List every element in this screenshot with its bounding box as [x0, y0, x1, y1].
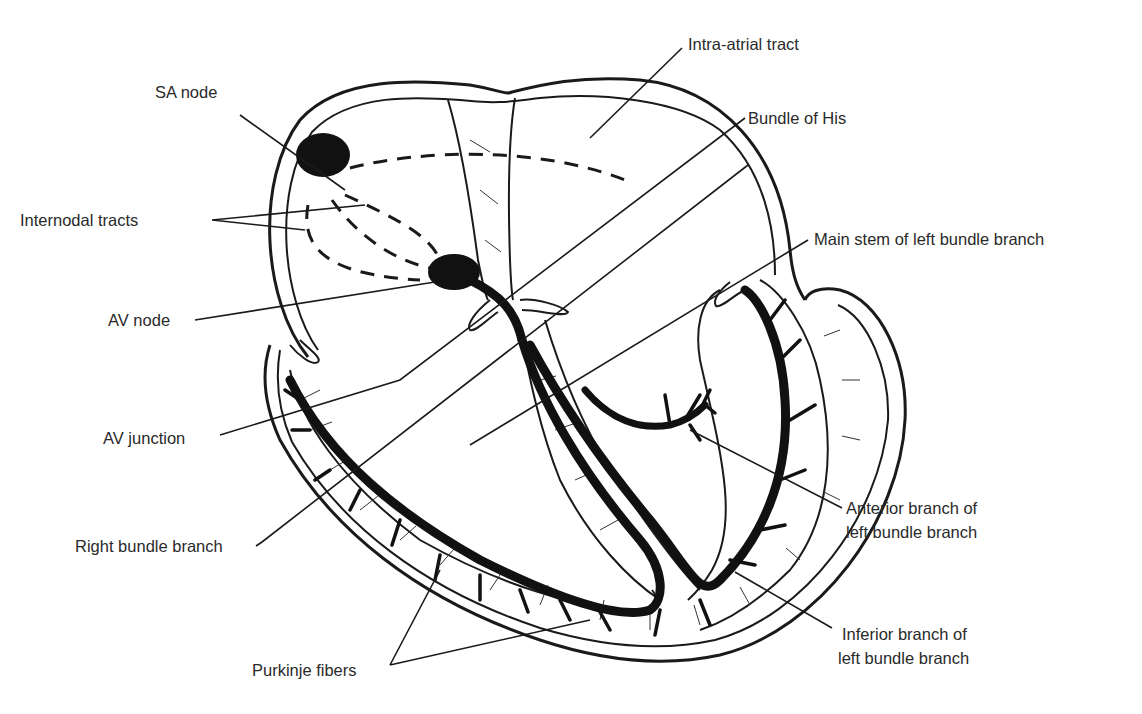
label-av-junction: AV junction: [103, 429, 185, 447]
purkinje-fibers-shapes: [285, 300, 815, 635]
label-av-node: AV node: [108, 311, 170, 329]
label-intra-atrial-tract: Intra-atrial tract: [688, 35, 799, 53]
label-inferior-branch-1: Inferior branch of: [842, 625, 967, 643]
label-bundle-of-his: Bundle of His: [748, 109, 846, 127]
label-inferior-branch-2: left bundle branch: [838, 649, 969, 667]
label-anterior-branch-1: Anterior branch of: [846, 499, 978, 517]
sa-node-shape: [296, 133, 350, 177]
label-anterior-branch-2: left bundle branch: [846, 523, 977, 541]
label-purkinje-fibers: Purkinje fibers: [252, 661, 357, 679]
label-internodal-tracts: Internodal tracts: [20, 211, 138, 229]
label-sa-node: SA node: [155, 83, 217, 101]
label-right-bundle-branch: Right bundle branch: [75, 537, 223, 555]
heart-conduction-diagram: SA node Intra-atrial tract Bundle of His…: [0, 0, 1142, 714]
conduction-pathway: [290, 254, 786, 613]
leader-lines: [195, 48, 842, 665]
label-main-stem-lbb: Main stem of left bundle branch: [814, 230, 1044, 248]
